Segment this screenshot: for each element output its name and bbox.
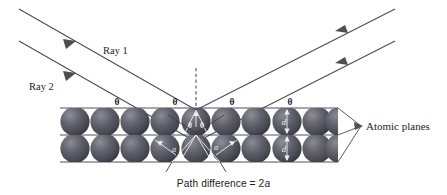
spacing-label-top: d [282, 117, 287, 127]
bragg-diffraction-figure: θ θ θ θ θ θ a a d d Ray 1 Ray 2 Atomic p… [0, 0, 447, 195]
atom-sphere [181, 134, 210, 163]
incident-ray-1 [19, 9, 196, 110]
caption-prefix-text: Path difference = 2 [177, 178, 265, 189]
atom-sphere [150, 107, 179, 136]
atom-sphere [60, 134, 89, 163]
path-difference-caption: Path difference = 2a [177, 178, 270, 189]
atom-sphere [90, 134, 119, 163]
angle-label-interior-right: θ [200, 121, 204, 130]
atomic-planes-callout [338, 108, 363, 162]
lower-ray-tails [166, 162, 226, 172]
angle-label-interior-left: θ [188, 121, 192, 130]
caption-container: Path difference = 2a [0, 173, 447, 191]
outgoing-ray-1 [196, 9, 395, 110]
atom-sphere [211, 107, 240, 136]
arrow-head-outgoing-2 [335, 57, 348, 65]
path-segment-label-left: a [172, 145, 176, 154]
atom-sphere [90, 107, 119, 136]
angle-label-theta-3: θ [230, 97, 235, 107]
angle-label-theta-1: θ [115, 97, 120, 107]
atom-sphere [325, 107, 354, 136]
angle-label-theta-4: θ [288, 97, 293, 107]
ray-2-label: Ray 2 [29, 81, 54, 92]
atom-sphere [120, 134, 149, 163]
spacing-label-bottom: d [282, 144, 287, 154]
atomic-planes-label: Atomic planes [366, 120, 430, 132]
atom-row-top [60, 107, 354, 136]
ray-1-label: Ray 1 [103, 45, 128, 56]
path-segment-label-right: a [214, 143, 218, 152]
arrow-head-outgoing-1 [335, 25, 348, 33]
arrow-head-atomic-planes [354, 122, 363, 130]
atom-sphere [241, 134, 270, 163]
atom-sphere [60, 107, 89, 136]
atom-sphere [241, 107, 270, 136]
caption-variable-text: a [264, 178, 270, 189]
atom-sphere [120, 107, 149, 136]
diagram-canvas: θ θ θ θ θ θ a a d d Ray 1 Ray 2 Atomic p… [0, 0, 447, 195]
angle-label-theta-2: θ [173, 97, 178, 107]
